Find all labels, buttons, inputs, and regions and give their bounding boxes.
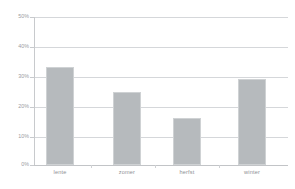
gridline-baseline [34,165,288,166]
bar-zomer [113,92,141,165]
bar-herfst [173,118,201,165]
x-axis-label-winter: winter [232,170,272,176]
y-tick-30 [30,77,34,78]
x-tick-3 [219,165,220,168]
x-axis-label-lente: lente [40,170,80,176]
x-tick-1 [91,165,92,168]
y-tick-10 [30,137,34,138]
y-tick-20 [30,107,34,108]
bar-chart: 50% 40% 30% 20% 10% 0% lente zomer herfs… [0,0,295,189]
bar-lente [46,67,74,165]
x-axis-label-zomer: zomer [107,170,147,176]
x-tick-2 [155,165,156,168]
y-axis-label-50: 50% [18,14,29,19]
y-axis-line [34,17,35,165]
y-axis-label-0: 0% [21,162,29,167]
y-axis-label-30: 30% [18,74,29,79]
y-tick-40 [30,47,34,48]
y-tick-50 [30,17,34,18]
gridline-40 [34,47,288,48]
y-tick-0 [30,165,34,166]
y-axis-label-40: 40% [18,44,29,49]
x-axis-label-herfst: herfst [167,170,207,176]
y-axis-label-20: 20% [18,104,29,109]
gridline-50 [34,17,288,18]
y-axis-label-10: 10% [18,134,29,139]
bar-winter [238,79,266,165]
